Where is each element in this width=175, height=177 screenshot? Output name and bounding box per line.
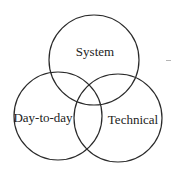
technical-label: Technical	[108, 113, 158, 126]
scan-artifact-dash	[166, 60, 171, 61]
venn-diagram	[0, 0, 175, 177]
day-to-day-label: Day-to-day	[13, 111, 72, 124]
system-label: System	[76, 45, 114, 58]
